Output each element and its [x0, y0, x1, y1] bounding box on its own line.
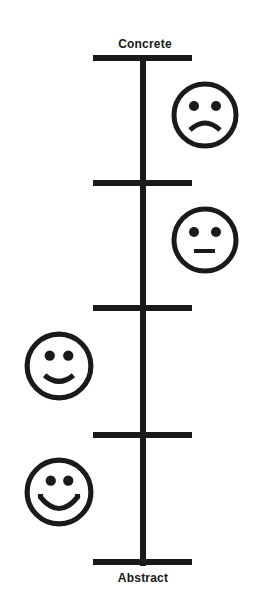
- tick-4: [93, 432, 192, 438]
- tick-2: [93, 180, 192, 186]
- big-smile-face-icon: [23, 456, 95, 528]
- label-concrete: Concrete: [85, 37, 205, 51]
- tick-3: [93, 305, 192, 311]
- sad-face-icon: [170, 80, 240, 150]
- neutral-face-icon: [170, 205, 240, 275]
- scale-axis: [140, 56, 146, 566]
- tick-top: [93, 55, 192, 61]
- smile-face-icon: [23, 330, 95, 402]
- tick-bottom: [93, 559, 192, 565]
- label-abstract: Abstract: [83, 571, 203, 585]
